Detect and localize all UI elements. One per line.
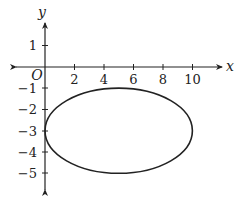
ellipse-curve: [45, 88, 192, 173]
x-tick-label: 2: [70, 72, 78, 87]
x-tick-label: 8: [159, 72, 167, 87]
x-tick-labels: 2 4 6 8 10: [70, 72, 200, 87]
origin-label: O: [31, 67, 43, 83]
x-axis-label: x: [226, 58, 234, 74]
y-tick-label: 1: [29, 38, 37, 53]
x-tick-label: 6: [129, 72, 137, 87]
x-tick-label: 10: [184, 72, 201, 87]
y-tick-label: −2: [18, 102, 37, 117]
y-tick-label: −4: [18, 145, 37, 160]
x-tick-label: 4: [100, 72, 108, 87]
coordinate-plane: 2 4 6 8 10 1 −1 −2 −3 −4 −5 x y O: [0, 0, 240, 201]
y-tick-labels: 1 −1 −2 −3 −4 −5: [18, 38, 37, 181]
y-axis-label: y: [37, 4, 47, 20]
y-tick-label: −3: [18, 124, 37, 139]
y-tick-label: −5: [18, 166, 37, 181]
